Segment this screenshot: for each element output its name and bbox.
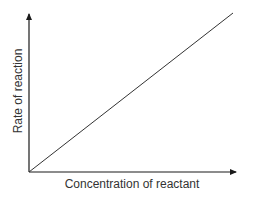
chart-canvas (0, 0, 257, 198)
x-axis-label: Concentration of reactant (29, 177, 235, 191)
rate-line (29, 13, 233, 172)
y-axis-label: Rate of reaction (11, 31, 25, 151)
